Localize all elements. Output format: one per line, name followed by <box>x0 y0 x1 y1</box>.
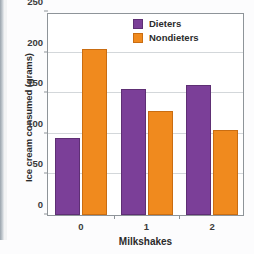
legend-item-nondieters[interactable]: Nondieters <box>133 32 199 43</box>
x-axis-title: Milkshakes <box>47 236 244 247</box>
x-axis-tick-label: 2 <box>210 221 215 232</box>
x-axis-tick-mark <box>179 215 180 219</box>
bar-nondieters-2[interactable] <box>213 130 238 215</box>
chart-figure: Ice cream consumed (grams) 0501001502002… <box>0 0 254 254</box>
x-axis-tick-label: 1 <box>144 221 149 232</box>
y-axis-tick-mark <box>44 11 48 12</box>
legend-label-dieters: Dieters <box>149 18 181 29</box>
legend-item-dieters[interactable]: Dieters <box>133 18 199 29</box>
bar-dieters-2[interactable] <box>186 85 211 215</box>
page-edge-strip-inner <box>4 0 7 240</box>
bar-nondieters-0[interactable] <box>82 49 107 215</box>
y-axis-tick-label: 250 <box>27 0 43 7</box>
legend-label-nondieters: Nondieters <box>149 32 199 43</box>
bar-group <box>55 14 107 215</box>
x-axis-tick-label: 0 <box>78 221 83 232</box>
legend-swatch-icon-dieters <box>133 19 143 29</box>
y-axis-tick-label: 200 <box>27 36 43 47</box>
y-axis-tick-label: 100 <box>27 117 43 128</box>
y-axis-tick-label: 150 <box>27 77 43 88</box>
y-axis-tick-label: 50 <box>32 158 43 169</box>
legend-swatch-icon-nondieters <box>133 33 143 43</box>
legend: Dieters Nondieters <box>133 18 199 46</box>
bar-dieters-1[interactable] <box>121 89 146 215</box>
bar-dieters-0[interactable] <box>55 138 80 215</box>
bar-nondieters-1[interactable] <box>148 111 173 215</box>
x-axis-tick-mark <box>114 215 115 219</box>
y-axis-tick-label: 0 <box>38 199 43 210</box>
